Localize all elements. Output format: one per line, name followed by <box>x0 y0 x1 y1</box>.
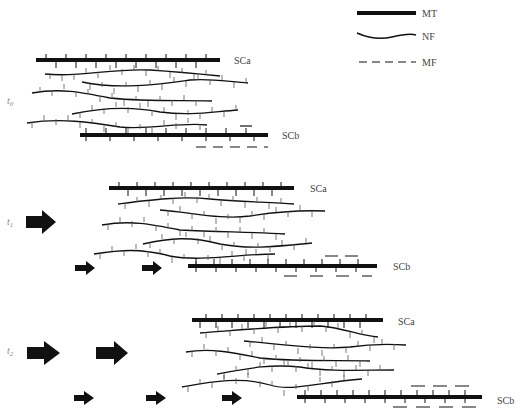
small-arrow-icon <box>74 391 94 405</box>
sca-label-t0: SCa <box>234 55 251 66</box>
panel-t1: t1 SCa SCb <box>7 182 410 276</box>
scb-label-t0: SCb <box>282 130 299 141</box>
time-label-t0: t0 <box>7 95 14 108</box>
neurofilaments-t0 <box>27 70 248 128</box>
diagram-root: MT NF MF t0 SCa SCb t1 <box>0 0 522 412</box>
fiber-sliding-diagram: MT NF MF t0 SCa SCb t1 <box>0 0 522 412</box>
small-arrow-icon <box>222 391 242 405</box>
legend-mf-label: MF <box>422 57 437 68</box>
small-arrow-icon <box>146 391 166 405</box>
large-arrow-icon <box>26 210 56 234</box>
time-label-t1: t1 <box>7 216 13 229</box>
panel-t2: t2 SCa SCb <box>7 314 514 407</box>
small-arrow-icon <box>142 261 162 275</box>
time-label-t2: t2 <box>7 345 14 358</box>
legend-nf-swatch <box>357 33 416 38</box>
panel-t0: t0 SCa SCb <box>7 54 299 147</box>
sca-label-t1: SCa <box>310 183 327 194</box>
large-arrow-icon <box>27 341 60 365</box>
nf-sidearms-t2 <box>188 321 394 396</box>
sca-label-t2: SCa <box>398 316 415 327</box>
large-arrow-icon <box>96 341 128 365</box>
scb-label-t2: SCb <box>497 395 514 406</box>
neurofilaments-t2 <box>182 326 406 387</box>
legend: MT NF MF <box>357 8 437 68</box>
neurofilaments-t1 <box>94 198 325 258</box>
legend-nf-label: NF <box>422 31 435 42</box>
legend-mt-label: MT <box>422 8 437 19</box>
small-arrow-icon <box>75 261 95 275</box>
scb-label-t1: SCb <box>393 261 410 272</box>
